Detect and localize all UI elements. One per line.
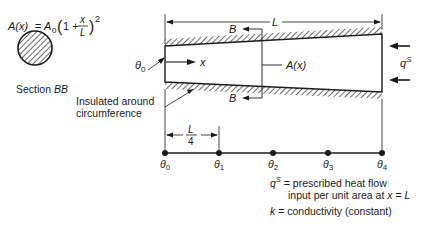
formula-paren-close: ) <box>89 18 94 35</box>
finite-element-mesh: θ0 θ1 θ2 θ3 θ4 <box>160 150 388 172</box>
formula-exponent: 2 <box>95 14 100 24</box>
formula-equals: = <box>35 20 41 32</box>
node-1 <box>216 150 222 156</box>
section-bb-icon <box>15 28 55 68</box>
formula-frac-num: x <box>79 14 86 25</box>
node-label-1: θ1 <box>214 158 225 172</box>
formula-coef: A <box>43 20 51 32</box>
length-label: L <box>272 16 278 28</box>
spacing-numerator: L <box>188 124 194 135</box>
legend-q-line2: input per unit area at x = L <box>288 189 410 201</box>
section-label: Section BB <box>16 83 68 95</box>
area-label: A(x) <box>285 59 307 71</box>
tapered-bar-diagram: A(x) = A 0 ( 1 + x L ) 2 Section BB L <box>0 0 423 230</box>
formula-frac-den: L <box>80 27 86 38</box>
insulation-note-line1: Insulated around <box>76 95 154 107</box>
element-spacing-dimension: L 4 <box>166 124 218 147</box>
section-marker-top: B <box>229 23 236 35</box>
formula-lhs: A(x) <box>7 20 29 32</box>
theta0-pointer: θ0 <box>135 57 165 74</box>
formula-one-plus: 1 + <box>63 20 79 32</box>
node-label-2: θ2 <box>268 158 279 172</box>
legend-k: k = conductivity (constant) <box>270 205 392 217</box>
node-label-0: θ0 <box>160 158 171 172</box>
section-label-name: BB <box>54 83 68 95</box>
flux-label: qS <box>400 55 412 69</box>
x-axis-label: x <box>199 56 206 68</box>
theta0-label: θ0 <box>135 59 146 74</box>
node-label-4: θ4 <box>377 158 388 172</box>
insulation-note-line2: circumference <box>76 107 142 119</box>
node-label-3: θ3 <box>323 158 334 172</box>
node-0 <box>162 150 168 156</box>
node-4 <box>379 150 385 156</box>
spacing-denominator: 4 <box>188 136 194 147</box>
node-3 <box>325 150 331 156</box>
heat-flux-arrows: qS <box>389 43 412 84</box>
section-label-prefix: Section <box>16 83 54 95</box>
legend: qS = prescribed heat flow input per unit… <box>270 175 410 217</box>
legend-q-line1: qS = prescribed heat flow <box>270 175 387 189</box>
section-marker-bottom: B <box>229 92 236 104</box>
insulation-leader <box>165 89 194 107</box>
area-formula: A(x) = A 0 ( 1 + x L ) 2 <box>7 14 100 38</box>
node-2 <box>270 150 276 156</box>
